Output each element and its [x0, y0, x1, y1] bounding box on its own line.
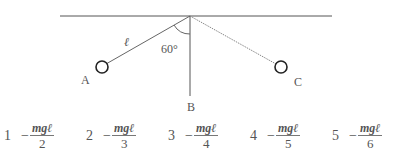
choice-number: 4 [250, 128, 257, 144]
fraction: mgℓ 2 [30, 121, 54, 151]
string-to-c [190, 16, 276, 64]
fraction: mgℓ 6 [358, 121, 382, 151]
numerator: mgℓ [112, 121, 136, 135]
fraction: mgℓ 4 [194, 121, 218, 151]
string-to-a [106, 16, 190, 64]
angle-label: 60° [161, 42, 178, 56]
minus-sign: − [21, 128, 29, 144]
point-b-label: B [187, 100, 195, 114]
point-a-label: A [81, 73, 90, 87]
numerator: mgℓ [358, 121, 382, 135]
numerator: mgℓ [30, 121, 54, 135]
denominator: 4 [203, 136, 210, 151]
minus-sign: − [349, 128, 357, 144]
bob-c [275, 61, 287, 73]
choice-2[interactable]: 2 − mgℓ 3 [86, 118, 136, 154]
choice-5[interactable]: 5 − mgℓ 6 [332, 118, 382, 154]
bob-a [96, 61, 108, 73]
answer-choices: 1 − mgℓ 2 2 − mgℓ 3 3 − mgℓ 4 4 − mgℓ 5 [0, 118, 400, 154]
fraction: mgℓ 5 [276, 121, 300, 151]
minus-sign: − [103, 128, 111, 144]
numerator: mgℓ [194, 121, 218, 135]
choice-number: 3 [168, 128, 175, 144]
choice-number: 5 [332, 128, 339, 144]
choice-1[interactable]: 1 − mgℓ 2 [4, 118, 54, 154]
choice-3[interactable]: 3 − mgℓ 4 [168, 118, 218, 154]
denominator: 3 [121, 136, 128, 151]
numerator: mgℓ [276, 121, 300, 135]
choice-4[interactable]: 4 − mgℓ 5 [250, 118, 300, 154]
point-c-label: C [294, 75, 302, 89]
choice-number: 1 [4, 128, 11, 144]
fraction: mgℓ 3 [112, 121, 136, 151]
choice-number: 2 [86, 128, 93, 144]
minus-sign: − [267, 128, 275, 144]
length-label: ℓ [124, 35, 129, 49]
angle-arc [174, 25, 190, 34]
denominator: 6 [367, 136, 374, 151]
denominator: 5 [285, 136, 292, 151]
pendulum-diagram: ℓ 60° A B C [0, 0, 400, 118]
minus-sign: − [185, 128, 193, 144]
denominator: 2 [39, 136, 46, 151]
